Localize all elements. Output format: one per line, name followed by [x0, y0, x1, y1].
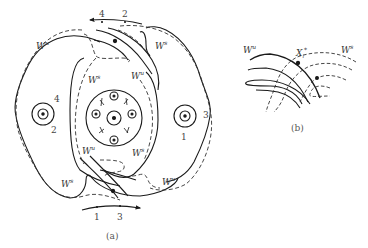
left-orbit-label-2: 2: [51, 126, 57, 135]
label-wu-2: Wu: [131, 70, 144, 81]
label-b-xi: Xi*: [296, 47, 307, 59]
label-ws-1: Ws: [155, 40, 167, 51]
label-b-wu: Wu: [243, 44, 256, 55]
label-wu-4: Wu: [162, 176, 175, 187]
top-label-2: 2: [122, 10, 128, 19]
label-ws-4: Ws: [61, 178, 73, 189]
right-orbit-label-1: 1: [181, 133, 187, 142]
manifold-diagram: [0, 0, 368, 248]
label-wu-3: Wu: [82, 145, 95, 156]
right-orbit-label-3: 3: [203, 111, 209, 120]
top-label-4: 4: [99, 10, 105, 19]
caption-a: (a): [106, 232, 118, 241]
label-b-ws: Ws: [341, 44, 353, 55]
caption-b: (b): [291, 124, 304, 133]
label-ws-3: Ws: [132, 147, 144, 158]
label-wu-1: Wu: [36, 40, 49, 51]
bottom-flow-arrow: [82, 206, 140, 210]
left-orbit-label-4: 4: [54, 95, 60, 104]
label-ws-2: Ws: [88, 74, 100, 85]
top-flow-arrow: [90, 20, 142, 25]
panel-b: [246, 53, 356, 112]
bottom-label-1: 1: [94, 213, 100, 222]
bottom-label-3: 3: [117, 213, 123, 222]
